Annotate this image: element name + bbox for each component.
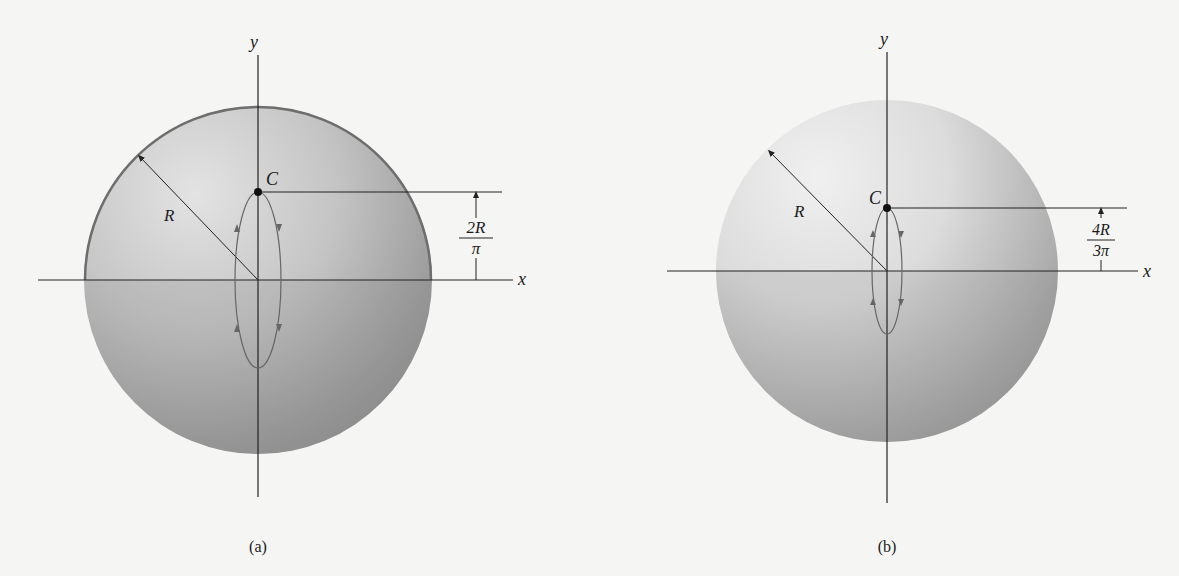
caption-a: (a) [249, 538, 267, 556]
figure-b: y x R C 4R 3π (b) [667, 29, 1151, 556]
dimension-numerator-a: 2R [467, 218, 487, 237]
caption-b: (b) [878, 538, 897, 556]
centroid-label-a: C [266, 169, 279, 189]
radius-label-b: R [793, 202, 805, 221]
figure-canvas: y x R C 2R π (a) y x R [0, 0, 1179, 576]
y-axis-label-a: y [248, 32, 258, 52]
centroid-point-a [254, 188, 262, 196]
centroid-point-b [883, 204, 891, 212]
x-axis-label-a: x [517, 269, 526, 289]
centroid-label-b: C [869, 188, 882, 208]
radius-label-a: R [163, 206, 175, 225]
dimension-numerator-b: 4R [1092, 221, 1110, 238]
x-axis-label-b: x [1142, 261, 1151, 281]
y-axis-label-b: y [878, 29, 888, 49]
dimension-denominator-b: 3π [1092, 242, 1110, 259]
dimension-denominator-a: π [472, 239, 481, 258]
diagram-svg: y x R C 2R π (a) y x R [0, 0, 1179, 576]
figure-a: y x R C 2R π (a) [38, 32, 526, 556]
